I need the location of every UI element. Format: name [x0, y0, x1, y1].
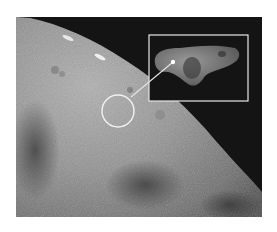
- pointer-dot: [171, 60, 175, 64]
- asteroid-photo: [16, 17, 262, 217]
- asteroid-illustration: [16, 17, 262, 217]
